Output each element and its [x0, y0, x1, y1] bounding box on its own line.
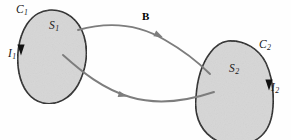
label-s2-subscript: 2 — [235, 67, 239, 76]
label-c1-base: C — [16, 3, 24, 15]
upper-field-line — [78, 25, 210, 74]
label-c1: C1 — [16, 4, 28, 17]
label-i2: I2 — [271, 82, 279, 95]
label-c2-subscript: 2 — [267, 43, 271, 52]
label-i1-subscript: 1 — [12, 52, 16, 61]
label-s1-subscript: 1 — [55, 24, 59, 33]
label-i2-subscript: 2 — [275, 86, 279, 95]
label-s2-base: S — [229, 62, 235, 74]
label-i1: I1 — [8, 48, 16, 61]
figure-container: C1 S1 I1 B C2 S2 I2 — [0, 0, 291, 140]
label-s1: S1 — [49, 20, 59, 33]
label-c1-subscript: 1 — [24, 8, 28, 17]
surface-s2-region — [196, 41, 274, 140]
label-c2-base: C — [259, 38, 267, 50]
label-c2: C2 — [259, 39, 271, 52]
lower-field-line-arrowhead-icon — [118, 91, 128, 97]
upper-field-line-arrowhead-icon — [153, 31, 162, 38]
label-b-field: B — [142, 10, 149, 22]
label-s2: S2 — [229, 63, 239, 76]
label-s1-base: S — [49, 19, 55, 31]
